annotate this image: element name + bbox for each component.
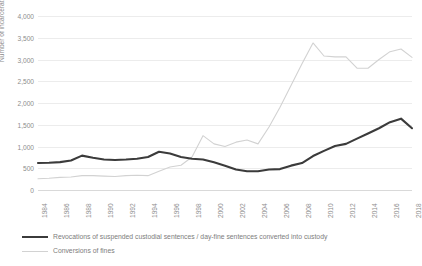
x-axis-tick-label: 2002 [239,203,246,218]
series-line [38,119,412,172]
y-axis-tick-label: 1,500 [0,121,34,128]
legend-item[interactable]: Conversions of fines [22,244,416,258]
x-axis-tick-labels: 1984198619881990199219941996199820002002… [38,192,412,226]
y-axis-tick-label: 1,000 [0,143,34,150]
y-axis-tick-label: 4,000 [0,13,34,20]
x-axis-tick-label: 2014 [371,203,378,218]
x-axis-tick-label: 2004 [261,203,268,218]
x-axis-tick-label: 2008 [305,203,312,218]
x-axis-tick-label: 1984 [41,203,48,218]
x-axis-tick-label: 2018 [415,203,422,218]
x-axis-tick-label: 1994 [151,203,158,218]
gridline [38,190,412,191]
legend-swatch-icon [22,247,48,255]
x-axis-tick-label: 2006 [283,203,290,218]
legend-swatch-icon [22,233,48,241]
x-axis-tick-label: 2010 [327,203,334,218]
x-axis-tick-label: 1998 [195,203,202,218]
x-axis-tick-label: 2000 [217,203,224,218]
chart-legend: Revocations of suspended custodial sente… [22,230,416,258]
series-layer [38,16,412,190]
y-axis-tick-label: 2,500 [0,78,34,85]
y-axis-tick-label: 500 [0,165,34,172]
y-axis-tick-label: 0 [0,187,34,194]
y-axis-tick-labels: 05001,0001,5002,0002,5003,0003,5004,000 [0,16,34,190]
plot-area [38,16,412,190]
legend-label: Conversions of fines [53,247,115,255]
x-axis-tick-label: 1992 [129,203,136,218]
y-axis-tick-label: 3,000 [0,56,34,63]
x-axis-tick-label: 1990 [107,203,114,218]
y-axis-tick-label: 3,500 [0,34,34,41]
legend-item[interactable]: Revocations of suspended custodial sente… [22,230,416,244]
x-axis-tick-label: 1996 [173,203,180,218]
x-axis-tick-label: 2016 [393,203,400,218]
x-axis-tick-label: 1988 [85,203,92,218]
y-axis-tick-label: 2,000 [0,100,34,107]
legend-label: Revocations of suspended custodial sente… [53,233,327,241]
x-axis-tick-label: 2012 [349,203,356,218]
x-axis-tick-label: 1986 [63,203,70,218]
